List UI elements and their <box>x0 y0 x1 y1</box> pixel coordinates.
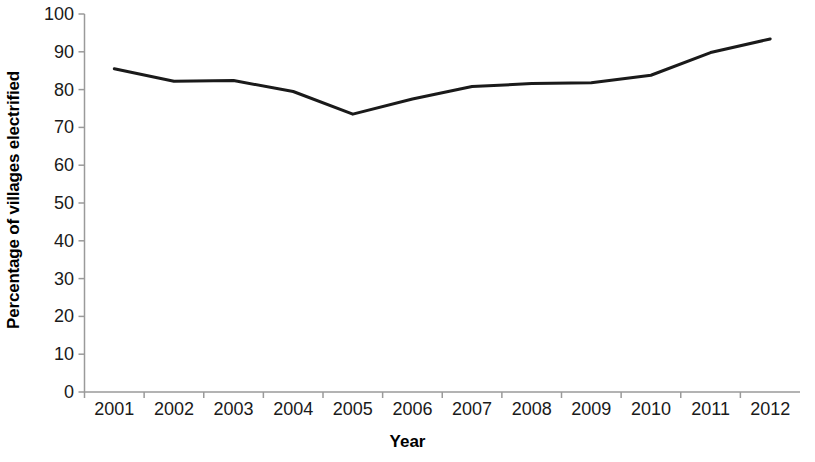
plot-area <box>0 0 815 462</box>
data-series-line <box>114 39 770 114</box>
y-axis-ticks <box>79 14 85 392</box>
x-axis-ticks <box>85 392 741 398</box>
line-chart: Percentage of villages electrified 01020… <box>0 0 815 462</box>
x-axis-tick-labels: 2001200220032004200520062007200820092010… <box>0 399 815 429</box>
x-axis-title: Year <box>0 432 815 452</box>
x-tick-label: 2012 <box>735 399 805 420</box>
